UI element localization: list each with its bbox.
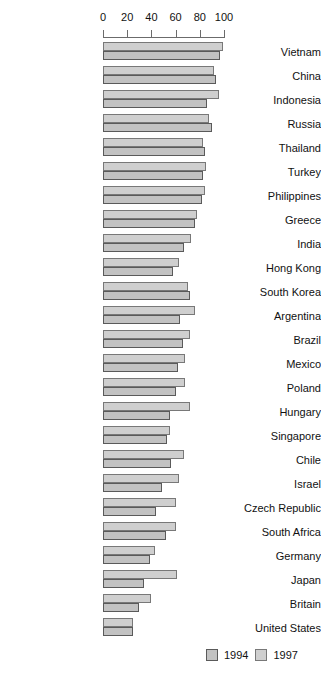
chart-row: Poland [0, 376, 321, 400]
category-label: Vietnam [227, 45, 321, 59]
bar-1997 [103, 42, 223, 51]
x-tick [127, 30, 128, 37]
legend-swatch-icon [206, 649, 218, 661]
bar-1994 [103, 411, 170, 420]
bar-1994 [103, 339, 183, 348]
category-label: India [227, 237, 321, 251]
bar-1997 [103, 570, 177, 579]
bar-1994 [103, 459, 171, 468]
chart-row: India [0, 232, 321, 256]
bar-1997 [103, 90, 219, 99]
bar-1994 [103, 435, 167, 444]
chart-row: South Africa [0, 520, 321, 544]
category-label: South Africa [227, 525, 321, 539]
legend-label: 1994 [224, 649, 248, 661]
chart-row: Singapore [0, 424, 321, 448]
bar-1997 [103, 210, 197, 219]
bar-1994 [103, 243, 184, 252]
chart-rows: VietnamChinaIndonesiaRussiaThailandTurke… [0, 40, 321, 640]
bar-1997 [103, 546, 155, 555]
chart-row: Israel [0, 472, 321, 496]
category-label: Chile [227, 453, 321, 467]
chart-row: Argentina [0, 304, 321, 328]
bar-1994 [103, 291, 190, 300]
bar-1994 [103, 363, 178, 372]
chart-row: Britain [0, 592, 321, 616]
bar-1994 [103, 555, 150, 564]
category-label: Turkey [227, 165, 321, 179]
chart-legend: 19941997 [206, 649, 298, 661]
category-label: China [227, 69, 321, 83]
category-label: Poland [227, 381, 321, 395]
bar-1994 [103, 219, 195, 228]
category-label: Hungary [227, 405, 321, 419]
bar-1997 [103, 186, 205, 195]
legend-item: 1994 [206, 649, 248, 661]
bar-1994 [103, 99, 207, 108]
x-tick-label: 0 [100, 12, 106, 23]
chart-row: South Korea [0, 280, 321, 304]
bar-1997 [103, 306, 195, 315]
chart-row: Hong Kong [0, 256, 321, 280]
bar-1997 [103, 618, 133, 627]
x-tick-label: 100 [215, 12, 233, 23]
category-label: South Korea [227, 285, 321, 299]
legend-item: 1997 [255, 649, 297, 661]
category-label: Mexico [227, 357, 321, 371]
bar-1994 [103, 171, 203, 180]
axis-line [103, 37, 225, 38]
legend-swatch-icon [255, 649, 267, 661]
chart-row: Chile [0, 448, 321, 472]
bar-1997 [103, 258, 179, 267]
chart-row: Hungary [0, 400, 321, 424]
x-axis: 020406080100 [0, 0, 321, 40]
bar-1997 [103, 354, 185, 363]
category-label: Singapore [227, 429, 321, 443]
bar-1997 [103, 330, 190, 339]
category-label: Israel [227, 477, 321, 491]
chart-row: Russia [0, 112, 321, 136]
bar-1997 [103, 378, 185, 387]
chart-row: Indonesia [0, 88, 321, 112]
x-tick [224, 30, 225, 37]
bar-1994 [103, 123, 212, 132]
category-label: Japan [227, 573, 321, 587]
category-label: Russia [227, 117, 321, 131]
bar-1997 [103, 594, 151, 603]
bar-1997 [103, 162, 206, 171]
bar-1994 [103, 603, 139, 612]
chart-row: Mexico [0, 352, 321, 376]
bar-1994 [103, 51, 220, 60]
x-tick-label: 60 [169, 12, 181, 23]
category-label: Philippines [227, 189, 321, 203]
category-label: Brazil [227, 333, 321, 347]
chart-row: Vietnam [0, 40, 321, 64]
bar-1994 [103, 531, 166, 540]
bar-1997 [103, 114, 209, 123]
x-tick [103, 30, 104, 37]
x-tick-label: 20 [121, 12, 133, 23]
chart-row: United States [0, 616, 321, 640]
x-tick-label: 40 [145, 12, 157, 23]
bar-1994 [103, 507, 156, 516]
chart-row: Brazil [0, 328, 321, 352]
bar-1997 [103, 138, 203, 147]
bar-1997 [103, 234, 191, 243]
x-tick-label: 80 [194, 12, 206, 23]
x-tick [176, 30, 177, 37]
chart-row: Germany [0, 544, 321, 568]
bar-1997 [103, 282, 188, 291]
bar-1997 [103, 450, 184, 459]
chart-row: Czech Republic [0, 496, 321, 520]
chart-row: Philippines [0, 184, 321, 208]
bar-1994 [103, 483, 162, 492]
category-label: Britain [227, 597, 321, 611]
legend-label: 1997 [273, 649, 297, 661]
bar-1997 [103, 66, 214, 75]
bar-1994 [103, 195, 202, 204]
category-label: Germany [227, 549, 321, 563]
bar-1997 [103, 426, 170, 435]
bar-1997 [103, 522, 176, 531]
category-label: Thailand [227, 141, 321, 155]
chart-row: Greece [0, 208, 321, 232]
